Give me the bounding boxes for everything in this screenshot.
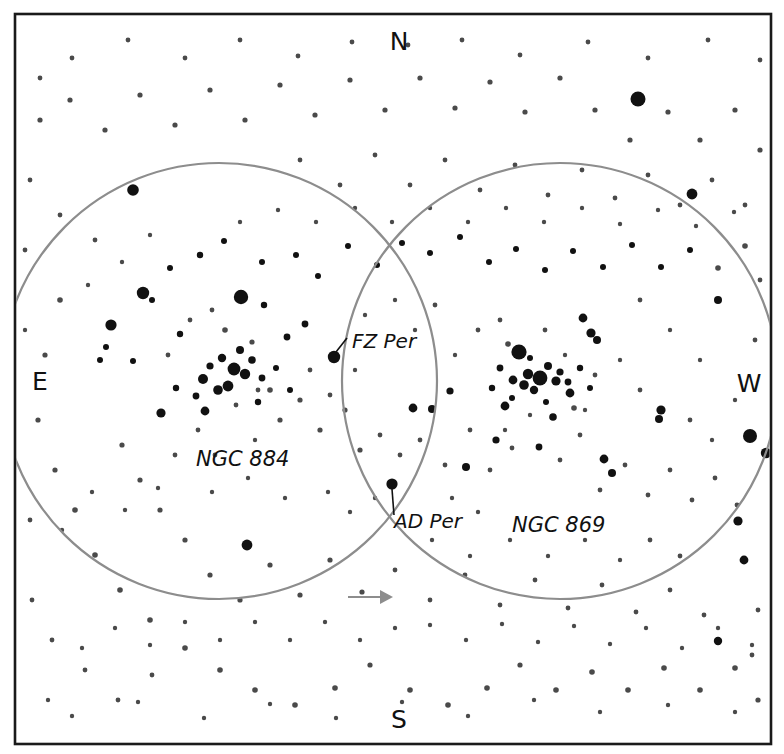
star-marker: [252, 687, 258, 693]
cardinal-label-east: E: [32, 367, 48, 396]
star-marker: [666, 703, 670, 707]
star-marker: [598, 488, 603, 493]
star-marker: [238, 220, 242, 224]
star-marker: [70, 56, 75, 61]
star-marker: [687, 189, 698, 200]
cardinal-label-north: N: [390, 27, 409, 56]
star-marker: [450, 496, 454, 500]
star-marker: [627, 137, 632, 142]
star-marker: [315, 273, 321, 279]
star-marker: [758, 278, 763, 283]
star-marker: [549, 413, 557, 421]
star-marker: [714, 637, 722, 645]
star-marker: [70, 714, 74, 718]
star-marker: [566, 389, 575, 398]
star-marker: [57, 297, 63, 303]
star-marker: [702, 613, 707, 618]
star-marker: [428, 598, 433, 603]
star-marker: [543, 328, 548, 333]
star-marker: [267, 562, 272, 567]
star-marker: [50, 638, 55, 643]
star-marker: [137, 477, 142, 482]
star-marker: [579, 314, 588, 323]
star-marker: [698, 358, 702, 362]
star-marker: [758, 58, 763, 63]
star-marker: [117, 587, 123, 593]
star-marker: [743, 203, 748, 208]
star-marker: [714, 296, 722, 304]
star-marker: [694, 224, 698, 228]
star-marker: [182, 537, 187, 542]
star-marker: [668, 328, 672, 332]
star-marker: [93, 238, 98, 243]
star-marker: [273, 365, 279, 371]
star-marker: [557, 75, 562, 80]
star-marker: [242, 117, 247, 122]
star-marker: [408, 183, 413, 188]
star-marker: [646, 56, 651, 61]
star-marker: [680, 646, 684, 650]
star-marker: [478, 188, 483, 193]
star-marker: [697, 687, 703, 693]
star-marker: [58, 213, 63, 218]
star-marker: [517, 662, 522, 667]
star-marker: [600, 583, 605, 588]
star-marker: [248, 356, 256, 364]
star-marker: [598, 710, 602, 714]
star-marker: [756, 608, 761, 613]
star-marker: [23, 328, 27, 332]
star-marker: [634, 610, 639, 615]
star-marker: [119, 442, 124, 447]
star-marker: [733, 398, 737, 402]
star-marker: [661, 665, 667, 671]
star-marker: [428, 623, 432, 627]
star-marker: [577, 365, 583, 371]
star-marker: [593, 336, 601, 344]
star-marker: [500, 622, 504, 626]
star-marker: [113, 626, 117, 630]
star-marker: [338, 183, 343, 188]
star-marker: [755, 697, 760, 702]
star-marker: [668, 588, 673, 593]
star-marker: [566, 606, 571, 611]
star-marker: [52, 467, 57, 472]
star-marker: [468, 428, 473, 433]
star-marker: [359, 589, 364, 594]
star-marker: [210, 308, 215, 313]
star-marker: [476, 510, 480, 514]
star-marker: [445, 702, 451, 708]
star-marker: [30, 598, 35, 603]
star-marker: [373, 153, 378, 158]
star-marker: [259, 259, 265, 265]
star-marker: [638, 298, 643, 303]
star-marker: [256, 388, 261, 393]
star-marker: [378, 433, 383, 438]
star-marker: [398, 453, 403, 458]
star-marker: [753, 338, 758, 343]
star-chart-canvas: N S E W NGC 884 NGC 869 FZ Per AD Per: [0, 0, 784, 754]
star-marker: [149, 297, 155, 303]
star-marker: [137, 287, 149, 299]
star-marker: [326, 490, 330, 494]
star-marker: [148, 643, 152, 647]
star-marker: [276, 208, 280, 212]
star-marker: [277, 417, 282, 422]
star-marker: [503, 428, 507, 432]
star-marker: [202, 716, 206, 720]
star-marker: [166, 353, 171, 358]
star-marker: [196, 428, 201, 433]
star-marker: [740, 556, 749, 565]
star-marker: [556, 368, 563, 375]
star-marker: [523, 369, 533, 379]
star-marker: [462, 463, 470, 471]
star-marker: [37, 117, 42, 122]
star-marker: [716, 626, 720, 630]
star-marker: [177, 331, 183, 337]
star-marker: [489, 385, 495, 391]
star-marker: [296, 54, 301, 59]
star-marker: [323, 620, 327, 624]
cluster-label-ngc884: NGC 884: [196, 447, 289, 471]
star-marker: [543, 399, 549, 405]
star-marker: [631, 92, 646, 107]
star-marker: [147, 617, 153, 623]
